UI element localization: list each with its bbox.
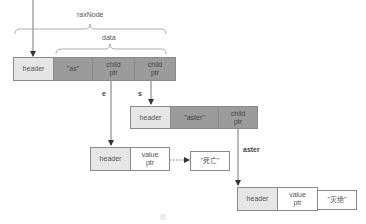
aster-child-ptr: child ptr [218, 106, 258, 129]
aster-header-cell: header [130, 106, 171, 129]
edge-label-e: e [102, 90, 106, 97]
root-header-cell: header [13, 57, 54, 81]
leaf-e-header-cell: header [90, 147, 131, 171]
edge-label-aster: aster [243, 146, 260, 153]
edge-label-s: s [138, 90, 142, 97]
root-key-cell: "as" [53, 57, 93, 81]
raxnode-label: raxNode [77, 11, 103, 18]
aster-key-cell: "aster" [170, 106, 219, 129]
leaf-aster-header-cell: header [237, 187, 278, 211]
leaf-e-value-ptr: value ptr [130, 147, 170, 171]
leaf-e-value: "死亡" [190, 151, 230, 171]
leaf-aster-value: "灭绝" [317, 190, 357, 210]
leaf-aster-value-ptr: value ptr [277, 187, 318, 211]
data-label: data [102, 34, 116, 41]
root-child-ptr-s: child ptr [134, 57, 176, 81]
root-child-ptr-e: child ptr [92, 57, 135, 81]
figure-caption: 图 [160, 212, 166, 221]
